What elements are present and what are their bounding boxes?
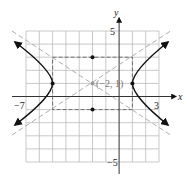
center-point [91,81,95,85]
y-axis-label: y [113,7,119,18]
hyperbola-graph: (−2, 1) x y −7 3 5 −5 [0,0,189,181]
y-max-label: 5 [110,26,115,37]
center-label: (−2, 1) [96,78,123,90]
co-vertex-bottom [91,108,95,112]
x-axis-label: x [177,91,183,102]
vertex-right [130,81,134,85]
vertex-left [51,81,55,85]
y-min-label: −5 [107,157,118,168]
x-min-label: −7 [14,100,25,111]
co-vertex-top [91,55,95,59]
x-max-label: 3 [154,100,159,111]
